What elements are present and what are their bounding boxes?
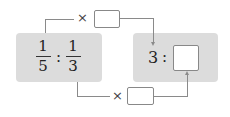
connector-line	[120, 18, 154, 19]
connector-line	[187, 75, 188, 97]
multiply-icon: ×	[77, 11, 88, 24]
ratio-colon: :	[56, 50, 61, 65]
connector-line	[77, 96, 110, 97]
answer-blank-bottom-multiplier[interactable]	[127, 87, 154, 105]
numerator: 1	[66, 39, 80, 55]
arrow-up-icon	[185, 71, 189, 75]
fraction-one-third: 1 3	[66, 39, 80, 74]
connector-line	[45, 19, 74, 20]
connector-line	[153, 18, 154, 43]
numerator: 1	[36, 39, 50, 55]
denominator: 5	[36, 59, 50, 74]
multiply-icon: ×	[112, 89, 123, 102]
answer-blank-top-multiplier[interactable]	[94, 10, 120, 28]
denominator: 3	[66, 59, 80, 74]
connector-line	[45, 19, 46, 33]
arrow-down-icon	[151, 42, 155, 46]
fraction-one-fifth: 1 5	[36, 39, 50, 74]
ratio-first-term: 3	[148, 50, 158, 66]
answer-blank-ratio-term[interactable]	[173, 45, 199, 71]
connector-line	[77, 82, 78, 97]
ratio-colon: :	[162, 50, 167, 65]
connector-line	[154, 96, 187, 97]
